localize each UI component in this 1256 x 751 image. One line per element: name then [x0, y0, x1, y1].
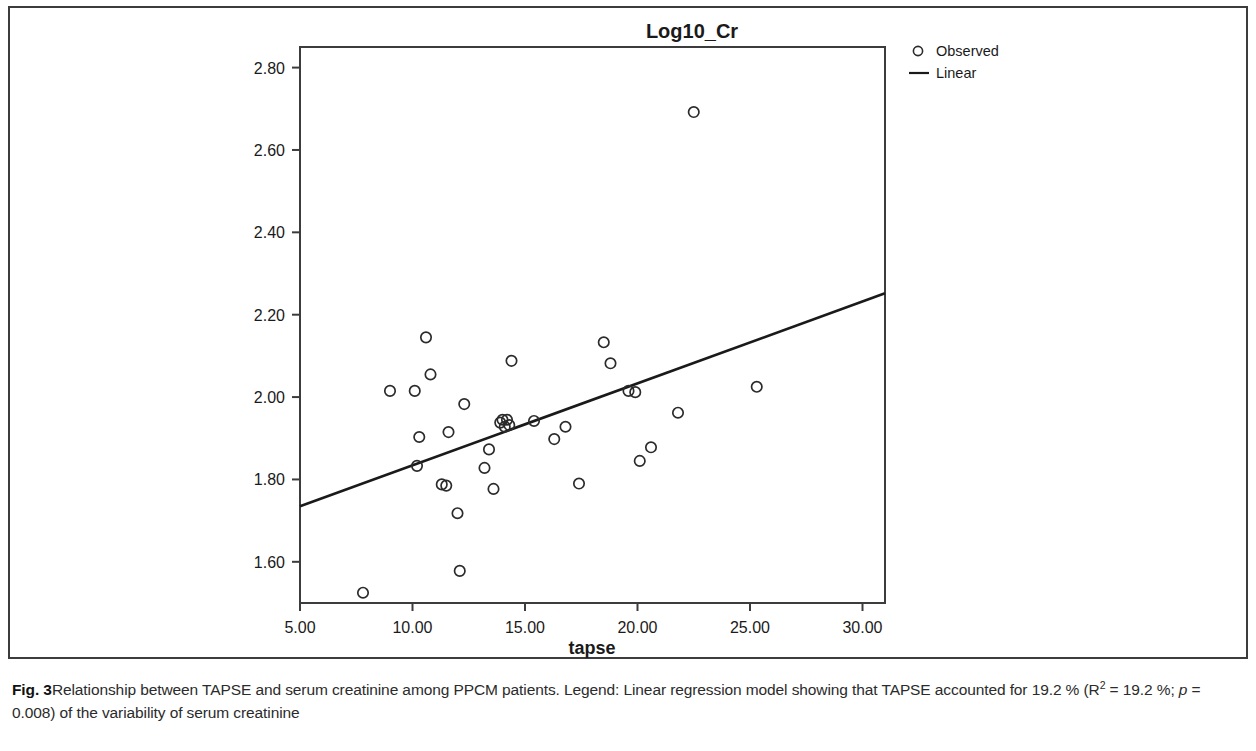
data-point	[630, 387, 640, 397]
chart-title: Log10_Cr	[646, 20, 738, 42]
caption-text-part2: = 19.2 %;	[1105, 681, 1178, 698]
data-point	[385, 386, 395, 396]
data-point	[358, 588, 368, 598]
data-point	[479, 463, 489, 473]
x-axis-ticks: 5.0010.0015.0020.0025.0030.00	[284, 603, 882, 636]
data-point	[560, 422, 570, 432]
x-tick-label: 5.00	[284, 619, 315, 636]
data-point	[752, 382, 762, 392]
caption-figure-number: Fig. 3	[12, 681, 52, 698]
data-point	[605, 358, 615, 368]
data-point	[484, 444, 494, 454]
data-point	[452, 508, 462, 518]
y-tick-label: 1.80	[254, 471, 285, 488]
legend: Observed Linear	[909, 43, 999, 81]
data-point	[574, 478, 584, 488]
legend-observed-icon	[913, 46, 922, 55]
legend-linear-label: Linear	[936, 65, 976, 81]
data-point	[673, 408, 683, 418]
x-axis-label: tapse	[568, 638, 615, 658]
x-tick-label: 30.00	[842, 619, 882, 636]
fit-line	[300, 293, 885, 506]
data-point	[646, 442, 656, 452]
data-point	[459, 399, 469, 409]
data-point	[635, 456, 645, 466]
x-tick-label: 10.00	[392, 619, 432, 636]
figure-caption: Fig. 3Relationship between TAPSE and ser…	[12, 678, 1246, 724]
y-tick-label: 2.00	[254, 389, 285, 406]
data-point	[410, 386, 420, 396]
y-tick-label: 2.40	[254, 224, 285, 241]
data-point	[689, 107, 699, 117]
x-tick-label: 20.00	[617, 619, 657, 636]
y-tick-label: 2.60	[254, 142, 285, 159]
scatter-plot: Log10_Cr 5.0010.0015.0020.0025.0030.00 1…	[8, 6, 1248, 659]
data-point	[443, 427, 453, 437]
data-point	[455, 566, 465, 576]
data-point	[425, 369, 435, 379]
regression-line	[300, 293, 885, 506]
data-point	[506, 356, 516, 366]
data-points	[358, 107, 762, 598]
figure-container: Log10_Cr 5.0010.0015.0020.0025.0030.00 1…	[0, 0, 1256, 751]
data-point	[549, 434, 559, 444]
y-tick-label: 1.60	[254, 554, 285, 571]
x-tick-label: 25.00	[730, 619, 770, 636]
y-axis-ticks: 1.601.802.002.202.402.602.80	[254, 60, 300, 571]
data-point	[414, 432, 424, 442]
data-point	[421, 332, 431, 342]
x-tick-label: 15.00	[505, 619, 545, 636]
data-point	[599, 337, 609, 347]
legend-observed-label: Observed	[936, 43, 999, 59]
data-point	[488, 484, 498, 494]
caption-text-part1: Relationship between TAPSE and serum cre…	[52, 681, 1100, 698]
y-tick-label: 2.80	[254, 60, 285, 77]
y-tick-label: 2.20	[254, 307, 285, 324]
